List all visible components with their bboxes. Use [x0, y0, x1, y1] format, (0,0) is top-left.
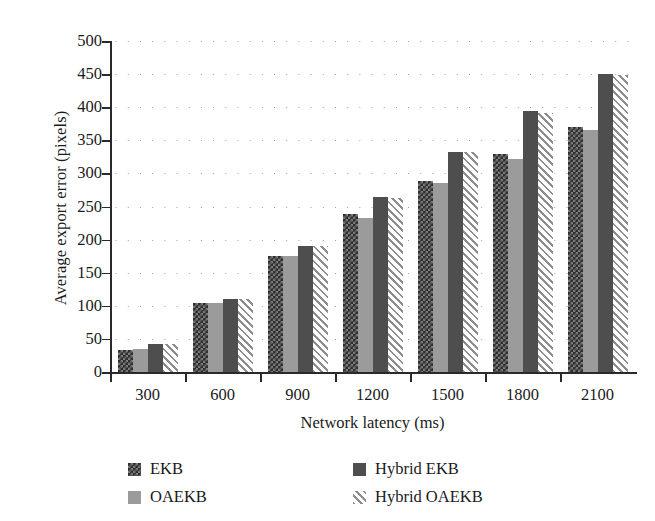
y-axis-tick-label: 150 — [56, 264, 102, 281]
bar — [163, 344, 178, 372]
bar — [448, 152, 463, 372]
bar — [568, 127, 583, 372]
y-axis-tick-label: 250 — [56, 198, 102, 215]
bar — [463, 152, 478, 372]
bar — [193, 303, 208, 373]
y-axis-tick-label: 400 — [56, 99, 102, 116]
legend-swatch — [353, 491, 366, 504]
legend-item: OAEKB — [128, 487, 353, 507]
bar-group — [493, 41, 553, 372]
bar — [268, 256, 283, 373]
bar — [133, 349, 148, 372]
legend-swatch — [128, 463, 141, 476]
bar — [223, 299, 238, 372]
bar — [148, 344, 163, 372]
bar-group — [343, 41, 403, 372]
y-axis-tick-mark — [102, 273, 111, 275]
y-axis-tick-label: 100 — [56, 298, 102, 315]
legend-label: Hybrid OAEKB — [375, 487, 483, 507]
y-axis-tick-label: 50 — [56, 331, 102, 348]
legend-item: EKB — [128, 459, 353, 479]
y-axis-tick-mark — [102, 140, 111, 142]
plot-area — [110, 41, 635, 372]
y-axis-tick-mark — [102, 339, 111, 341]
bar — [433, 183, 448, 372]
bar-chart-figure: Average export error (pixels) 0501001502… — [0, 0, 655, 521]
bar — [583, 130, 598, 372]
chart-legend: EKBHybrid EKBOAEKBHybrid OAEKB — [128, 455, 608, 511]
y-axis-tick-label: 450 — [56, 66, 102, 83]
bar — [238, 299, 253, 372]
x-axis-tick-mark — [335, 373, 337, 382]
legend-label: Hybrid EKB — [375, 459, 459, 479]
bar-group — [268, 41, 328, 372]
y-axis-tick-mark — [102, 173, 111, 175]
bar — [523, 111, 538, 372]
legend-item: Hybrid OAEKB — [353, 487, 608, 507]
y-axis-tick-labels: 050100150200250300350400450500 — [48, 0, 102, 521]
bar — [298, 246, 313, 372]
y-axis-tick-mark — [102, 207, 111, 209]
bar — [208, 303, 223, 372]
bar-group — [568, 41, 628, 372]
y-axis-tick-mark — [102, 41, 111, 43]
y-axis-tick-label: 350 — [56, 132, 102, 149]
x-axis-tick-mark — [410, 373, 412, 382]
bar — [613, 75, 628, 372]
y-axis-tick-mark — [102, 107, 111, 109]
x-axis-tick-mark — [110, 373, 112, 382]
bar — [118, 350, 133, 372]
x-axis-tick-mark — [260, 373, 262, 382]
bar-group — [193, 41, 253, 372]
bar — [598, 74, 613, 372]
y-axis-tick-label: 300 — [56, 165, 102, 182]
bar — [313, 246, 328, 372]
bar — [358, 218, 373, 372]
bar — [283, 256, 298, 372]
legend-swatch — [353, 463, 366, 476]
bar — [373, 197, 388, 372]
y-axis-tick-mark — [102, 240, 111, 242]
bar — [508, 159, 523, 372]
bar — [343, 214, 358, 372]
bar-group — [118, 41, 178, 372]
legend-label: OAEKB — [150, 487, 207, 507]
legend-label: EKB — [150, 459, 183, 479]
x-axis-title: Network latency (ms) — [110, 413, 635, 433]
y-axis-tick-mark — [102, 306, 111, 308]
bar — [388, 198, 403, 372]
legend-item: Hybrid EKB — [353, 459, 608, 479]
bar — [418, 181, 433, 372]
legend-swatch — [128, 491, 141, 504]
y-axis-tick-label: 500 — [56, 33, 102, 50]
y-axis-tick-mark — [102, 74, 111, 76]
bar-group — [418, 41, 478, 372]
x-axis-tick-mark — [485, 373, 487, 382]
x-axis-line — [110, 372, 637, 374]
bar — [493, 154, 508, 372]
bar — [538, 113, 553, 373]
y-axis-tick-label: 200 — [56, 231, 102, 248]
x-axis-tick-label: 2100 — [553, 385, 643, 405]
x-axis-tick-mark — [560, 373, 562, 382]
y-axis-tick-label: 0 — [56, 364, 102, 381]
x-axis-tick-mark — [185, 373, 187, 382]
